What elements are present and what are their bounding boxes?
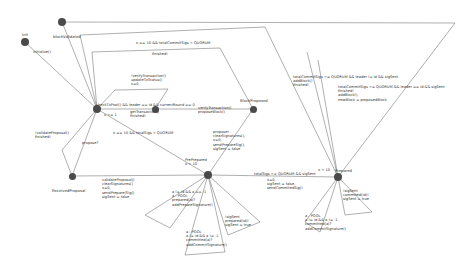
edge-pp-loop1: a != id && a == -1 a : POOL prepared(a)?… xyxy=(172,190,213,207)
edge-commit-leader: totalCommitSigs >= QUORUM && leader == i… xyxy=(338,85,445,102)
state-name-block-proposed: BlockProposed xyxy=(240,98,268,103)
edge-mid: verifyTransaction() proposeBlock() xyxy=(198,106,232,114)
edge-initialize: initialize() xyxy=(33,50,51,54)
state-received-proposal[interactable] xyxy=(69,173,76,180)
edge-top-finished: finished! xyxy=(152,52,168,56)
edge-x10-quorum: x == 10 && totalSigs < QUORUM xyxy=(113,131,173,135)
edge-x10: x < 10 xyxy=(318,168,330,172)
edge-pr-loop2: a : POOL a != id && a != -1 committed(a)… xyxy=(305,214,346,231)
edge-get-tx: getTransaction() finished! xyxy=(130,110,159,118)
state-init[interactable] xyxy=(21,38,29,46)
edge-commit-send: x=0, sigSent = false, sendCommitedSig() xyxy=(267,178,303,191)
edge-pp-loop3: !sigSent prepared(id)! sigSent = true xyxy=(225,215,251,228)
state-block-validated[interactable] xyxy=(58,18,66,26)
state-name-prepared: Prepared xyxy=(335,168,352,173)
edge-verify: !verifyTransaction() updateTxStatus() x=… xyxy=(131,74,166,87)
state-name-block-validated: blockValidated xyxy=(53,34,81,39)
state-name-preprepared: PrePrepared x < 10 xyxy=(185,158,207,166)
edge-proposer: proposer clearSignatures(), x=0, sendPre… xyxy=(213,130,245,151)
edge-pp-loop2: a : POOL a != id && a != -1 committed(a)… xyxy=(186,230,227,247)
edge-top-guard: x == 10 && totalCommitSigs < QUORUM xyxy=(136,41,210,45)
edge-total-sigs: totalSigs >= QUORUM && sigSent xyxy=(254,172,316,176)
state-block-proposed[interactable] xyxy=(250,106,257,113)
edge-xeq: x <= 1 xyxy=(104,113,117,117)
state-name-received-proposal: ReceivedProposal xyxy=(52,188,85,193)
state-prepared[interactable] xyxy=(334,173,342,181)
state-preprepared[interactable] xyxy=(204,171,212,179)
edge-propose: propose? xyxy=(82,141,98,145)
edge-validate: validateProposal() clearSignatures() x=0… xyxy=(102,178,135,199)
edge-invalid: !validateProposal() finished! xyxy=(35,131,69,139)
edge-check: checkTxPool() && leader == id && current… xyxy=(96,103,195,107)
state-name-init: init xyxy=(22,32,28,37)
edge-pr-loop1: !sigSent commited(id)! sigSent = true xyxy=(343,189,369,202)
